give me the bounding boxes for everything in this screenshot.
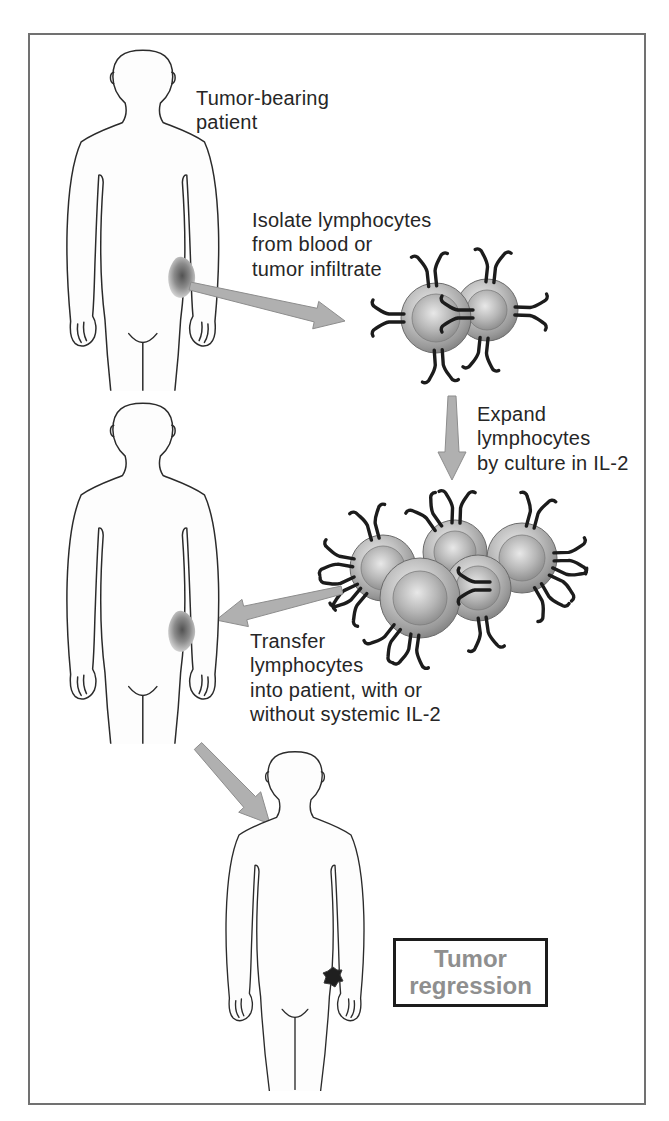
patient-figure-middle bbox=[67, 403, 219, 776]
label-isolate-lymphocytes: Isolate lymphocytes from blood or tumor … bbox=[252, 208, 431, 281]
label-expand-lymphocytes: Expand lymphocytes by culture in IL-2 bbox=[477, 402, 628, 475]
label-transfer-lymphocytes: Transfer lymphocytes into patient, with … bbox=[250, 629, 441, 727]
outcome-label: Tumor regression bbox=[409, 946, 532, 999]
outcome-arrow-icon bbox=[194, 743, 270, 824]
diagram-artwork bbox=[0, 0, 669, 1121]
outcome-box: Tumor regression bbox=[393, 938, 548, 1007]
label-tumor-bearing-patient: Tumor-bearing patient bbox=[196, 86, 329, 135]
transfer-arrow-icon bbox=[216, 586, 343, 627]
figure-canvas: Tumor-bearing patient Isolate lymphocyte… bbox=[0, 0, 669, 1121]
expand-arrow-icon bbox=[438, 396, 466, 480]
